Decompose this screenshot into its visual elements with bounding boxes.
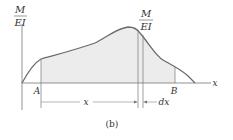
distance-x-label: x bbox=[83, 97, 88, 107]
x-axis-label: x bbox=[212, 78, 217, 88]
arrowhead-x bbox=[134, 101, 138, 104]
point-b-label: B bbox=[170, 86, 178, 96]
y-axis-label-numerator: M bbox=[14, 4, 26, 15]
arrowhead-dx bbox=[143, 101, 147, 104]
moment-area-diagram: M EI M EI A B x x dx (b) bbox=[0, 0, 233, 140]
y-axis-label-denominator: EI bbox=[13, 17, 26, 28]
figure-caption: (b) bbox=[106, 119, 119, 129]
strip-label-denominator: EI bbox=[139, 21, 152, 32]
strip-width-label: dx bbox=[159, 97, 170, 107]
point-a-label: A bbox=[33, 86, 41, 96]
strip-label-numerator: M bbox=[140, 8, 152, 19]
